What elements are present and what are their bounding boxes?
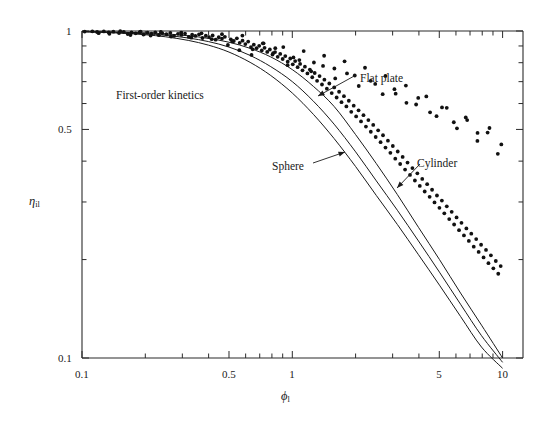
x-tick-label-1: 1 xyxy=(289,368,295,380)
data-point xyxy=(262,41,266,45)
x-axis-subscript: l xyxy=(287,394,289,404)
data-point xyxy=(404,84,408,88)
data-point xyxy=(310,75,314,79)
data-point xyxy=(273,46,277,50)
data-point xyxy=(327,82,331,86)
data-point xyxy=(169,35,173,39)
data-point xyxy=(286,60,290,64)
data-point xyxy=(452,223,456,227)
data-point xyxy=(413,179,417,183)
data-point xyxy=(243,42,247,46)
data-point xyxy=(263,46,267,50)
data-point xyxy=(129,33,133,37)
axis-ticks xyxy=(82,31,523,358)
x-axis-title: ϕl xyxy=(281,389,290,404)
data-point xyxy=(241,39,245,43)
data-point xyxy=(401,155,405,159)
annotation-cylinder: Cylinder xyxy=(417,157,457,169)
data-point xyxy=(306,71,310,75)
data-point xyxy=(424,94,428,98)
y-tick-label-0p5: 0.5 xyxy=(58,123,72,135)
data-point xyxy=(467,239,471,243)
data-point xyxy=(464,227,468,231)
data-point xyxy=(357,84,361,88)
data-point xyxy=(322,78,326,82)
y-axis-title: ηil xyxy=(29,194,40,209)
data-point xyxy=(252,43,256,47)
data-point xyxy=(457,228,461,232)
data-point xyxy=(313,71,317,75)
data-point xyxy=(309,69,313,73)
data-point xyxy=(134,31,138,35)
data-point xyxy=(288,57,292,61)
data-point xyxy=(442,211,446,215)
y-tick-label-1: 1 xyxy=(66,25,72,37)
data-point xyxy=(496,272,500,276)
data-point xyxy=(118,29,122,33)
data-point xyxy=(201,36,205,40)
data-point xyxy=(455,216,459,220)
data-point xyxy=(153,30,157,34)
data-point xyxy=(343,59,347,63)
data-point xyxy=(142,33,146,37)
data-point xyxy=(415,171,419,175)
data-point xyxy=(405,101,409,105)
annotation-flat-plate: Flat plate xyxy=(360,72,403,84)
data-point xyxy=(302,49,306,53)
y-tick-label-0p1: 0.1 xyxy=(58,352,72,364)
data-point xyxy=(438,206,442,210)
data-point xyxy=(435,194,439,198)
theory-curves xyxy=(82,31,503,368)
data-point xyxy=(440,105,444,109)
data-point xyxy=(293,59,297,63)
data-point xyxy=(240,34,244,38)
data-point xyxy=(362,113,366,117)
data-point xyxy=(428,195,432,199)
data-point xyxy=(354,115,358,119)
data-point xyxy=(149,34,153,38)
data-point xyxy=(90,29,94,33)
data-point xyxy=(159,30,163,34)
data-point xyxy=(462,234,466,238)
data-point xyxy=(83,30,87,34)
scatter-points xyxy=(83,29,503,275)
annotation-sphere: Sphere xyxy=(272,160,304,172)
data-point xyxy=(398,162,402,166)
y-axis-subscript: il xyxy=(35,199,40,209)
x-tick-label-5: 5 xyxy=(436,368,442,380)
data-point xyxy=(363,66,367,70)
data-point xyxy=(330,91,334,95)
data-point xyxy=(352,104,356,108)
data-point xyxy=(257,44,261,48)
data-point xyxy=(472,245,476,249)
data-point xyxy=(486,131,490,135)
figure-container: 1 0.5 0.1 0.1 0.5 1 5 10 ηil ϕl First-or… xyxy=(0,0,545,432)
data-point xyxy=(276,55,280,59)
data-point xyxy=(393,157,397,161)
data-point xyxy=(193,34,197,38)
data-point xyxy=(479,243,483,247)
data-point xyxy=(220,32,224,36)
data-point xyxy=(499,143,503,147)
data-point xyxy=(430,188,434,192)
data-point xyxy=(230,40,234,44)
data-point xyxy=(210,37,214,41)
data-point xyxy=(491,266,495,270)
data-point xyxy=(200,31,204,35)
data-point xyxy=(416,96,420,100)
data-point xyxy=(477,250,481,254)
data-point xyxy=(281,45,285,49)
data-point xyxy=(366,118,370,122)
data-point xyxy=(371,123,375,127)
data-point xyxy=(406,161,410,165)
data-point xyxy=(296,65,300,69)
data-point xyxy=(433,201,437,205)
data-point xyxy=(122,30,126,34)
data-point xyxy=(278,52,282,56)
data-point xyxy=(214,38,218,42)
data-point xyxy=(223,35,227,39)
data-point xyxy=(357,108,361,112)
data-point xyxy=(268,48,272,52)
data-point xyxy=(286,63,290,67)
data-point xyxy=(386,139,390,143)
